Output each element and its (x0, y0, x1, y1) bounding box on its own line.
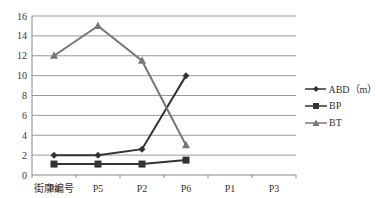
legend-item-bt: BT (305, 114, 376, 131)
square-marker-icon (305, 102, 327, 110)
diamond-marker-icon (51, 152, 58, 159)
y-tick-label: 4 (22, 130, 27, 141)
diamond-marker-icon (95, 152, 102, 159)
legend-item-abd: ABD（m） (305, 80, 376, 97)
y-tick-label: 0 (22, 170, 27, 181)
y-tick-label: 10 (17, 70, 27, 81)
square-marker-icon (95, 161, 102, 168)
series-lines (50, 21, 190, 167)
series-line (54, 26, 186, 145)
y-tick-label: 14 (17, 30, 27, 41)
legend-item-bp: BP (305, 97, 376, 114)
x-tick-label: P6 (181, 183, 192, 194)
series-line (54, 160, 186, 164)
diamond-marker-icon (305, 85, 326, 93)
gridlines (32, 16, 296, 155)
square-marker-icon (183, 157, 190, 164)
y-tick-label: 12 (17, 50, 27, 61)
y-tick-label: 2 (22, 150, 27, 161)
legend-label: BP (329, 100, 341, 111)
x-tick-label: P1 (225, 183, 236, 194)
x-tick-label: P3 (269, 183, 280, 194)
y-axis-ticks: 0246810121416 (17, 11, 27, 181)
x-axis-label: 街廓编号 (34, 182, 74, 194)
x-tick-label: P5 (93, 183, 104, 194)
square-marker-icon (51, 161, 58, 168)
triangle-marker-icon (305, 119, 327, 127)
legend-label: ABD（m） (328, 81, 376, 96)
y-tick-label: 8 (22, 90, 27, 101)
y-tick-label: 6 (22, 110, 27, 121)
legend-label: BT (329, 117, 342, 128)
legend: ABD（m） BP BT (305, 80, 376, 131)
square-marker-icon (139, 161, 146, 168)
y-tick-label: 16 (17, 11, 27, 22)
triangle-marker-icon (94, 21, 102, 29)
x-tick-label: P2 (137, 183, 148, 194)
